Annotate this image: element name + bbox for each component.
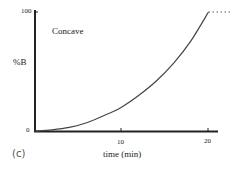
y-tick-label-0: 0 — [26, 126, 30, 134]
curve-annotation: Concave — [52, 26, 84, 36]
panel-label: (c) — [12, 148, 25, 159]
y-tick-label-100: 100 — [21, 7, 32, 15]
y-axis-label: %B — [13, 57, 27, 67]
x-tick-label-20: 20 — [204, 137, 211, 145]
x-axis-label: time (min) — [103, 149, 141, 159]
x-tick-label-10: 10 — [117, 138, 124, 146]
